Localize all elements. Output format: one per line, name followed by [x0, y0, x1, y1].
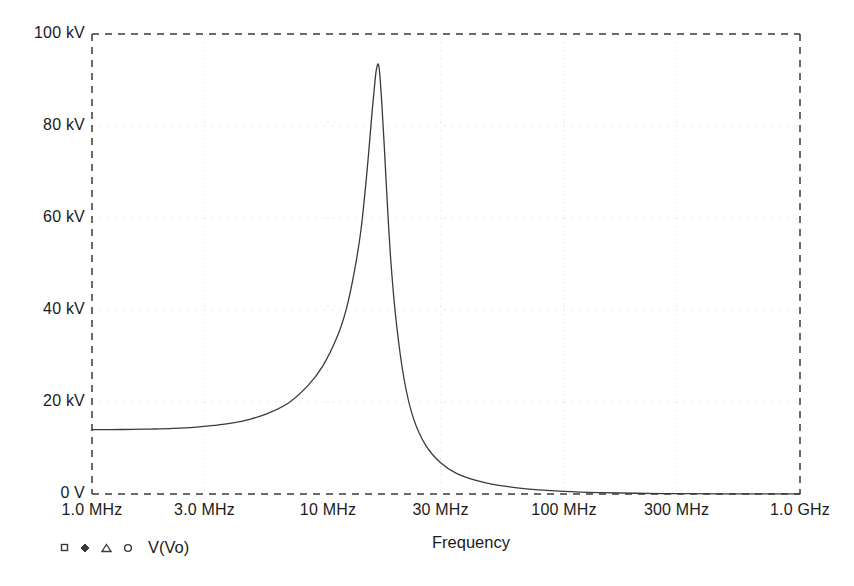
x-tick-label: 300 MHz — [617, 501, 737, 519]
x-tick-label: 30 MHz — [381, 501, 501, 519]
y-tick-label: 60 kV — [43, 208, 85, 226]
x-tick-label: 100 MHz — [504, 501, 624, 519]
x-tick-label: 1.0 GHz — [740, 501, 854, 519]
chart-canvas: 0 V20 kV40 kV60 kV80 kV100 kV 1.0 MHz3.0… — [0, 0, 854, 586]
x-axis-title: Frequency — [432, 533, 510, 552]
legend[interactable]: V(Vo) — [60, 538, 189, 557]
gridlines — [92, 34, 800, 494]
diamond-marker — [80, 543, 90, 553]
legend-series-label: V(Vo) — [148, 538, 189, 557]
square-marker — [60, 543, 69, 552]
plot-frame — [92, 34, 800, 494]
y-tick-label: 80 kV — [43, 116, 85, 134]
data-curves — [92, 64, 800, 494]
triangle-marker — [101, 543, 112, 553]
y-tick-label: 0 V — [60, 484, 85, 502]
y-tick-label: 40 kV — [43, 300, 85, 318]
circle-marker — [123, 543, 133, 553]
y-tick-label: 100 kV — [34, 24, 85, 42]
y-tick-label: 20 kV — [43, 392, 85, 410]
plot-area — [0, 0, 854, 586]
x-tick-label: 1.0 MHz — [32, 501, 152, 519]
x-tick-label: 10 MHz — [268, 501, 388, 519]
x-tick-label: 3.0 MHz — [145, 501, 265, 519]
